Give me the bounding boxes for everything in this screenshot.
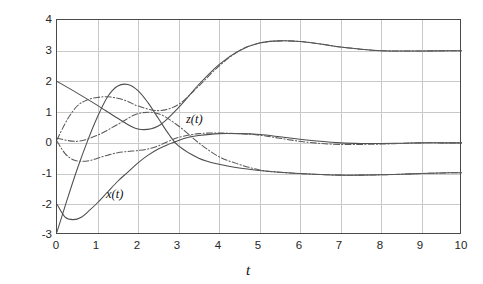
x-tick-label: 2: [125, 240, 149, 252]
series-line-z(t): [57, 133, 462, 161]
x-axis-label: t: [246, 262, 250, 279]
series-lines: [57, 20, 462, 235]
x-tick-label: 0: [44, 240, 68, 252]
y-tick-label: 3: [22, 45, 52, 57]
series-line-x(t): [57, 133, 462, 219]
series-line-x(t): [57, 84, 462, 232]
x-tick-label: 3: [165, 240, 189, 252]
x-tick-label: 1: [84, 240, 108, 252]
x-tick-label: 7: [327, 240, 351, 252]
series-line-z(t): [57, 41, 462, 140]
y-tick-label: 2: [22, 76, 52, 88]
y-tick-label: 0: [22, 137, 52, 149]
figure-root: x(t) and z(t) 4 3 2 1 0 -1 -2 -3 0 1 2 3…: [0, 0, 483, 284]
x-tick-label: 10: [449, 240, 473, 252]
y-tick-label: 1: [22, 107, 52, 119]
series-line-z(t): [57, 41, 462, 130]
y-tick-label: -2: [22, 199, 52, 211]
series-annotation-x: x(t): [106, 187, 123, 202]
series-annotation-z: z(t): [186, 112, 203, 127]
x-tick-label: 9: [408, 240, 432, 252]
x-tick-label: 6: [287, 240, 311, 252]
y-tick-label: -3: [22, 229, 52, 241]
x-tick-label: 5: [246, 240, 270, 252]
y-tick-label: 4: [22, 14, 52, 26]
x-tick-label: 4: [206, 240, 230, 252]
x-tick-label: 8: [368, 240, 392, 252]
y-tick-label: -1: [22, 168, 52, 180]
